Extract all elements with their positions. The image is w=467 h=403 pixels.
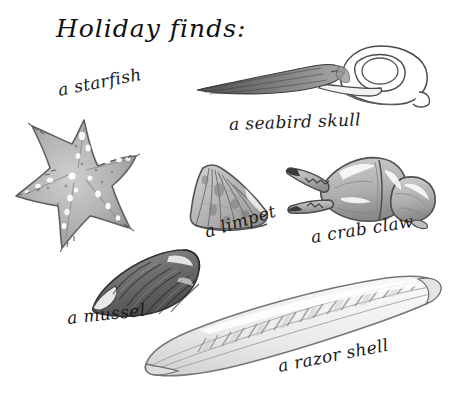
page-title: Holiday finds: [56, 14, 246, 43]
starfish-icon [12, 112, 152, 252]
skull-icon [193, 40, 433, 112]
label-starfish: a starfish [56, 64, 143, 100]
label-seabird-skull: a seabird skull [229, 109, 362, 134]
illustration-sheet: Holiday finds: [0, 0, 467, 403]
